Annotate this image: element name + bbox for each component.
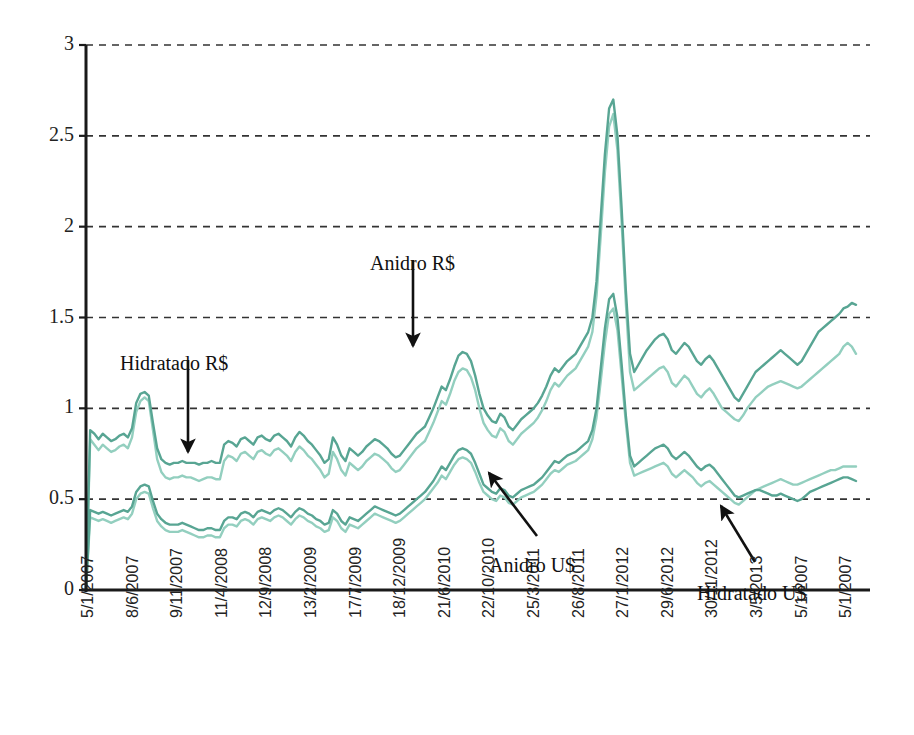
annotation-label-hidratado-u: Hidratado U$ bbox=[697, 582, 806, 605]
annotation-arrow-anidro-u bbox=[489, 473, 537, 536]
annotation-label-anidro-u: Anidro U$ bbox=[489, 554, 575, 577]
x-axis-label: 11/4/2008 bbox=[213, 548, 231, 618]
y-axis-label: 1 bbox=[64, 395, 74, 418]
annotation-label-hidratado-r: Hidratado R$ bbox=[120, 352, 228, 375]
x-axis-label: 8/6/2007 bbox=[124, 556, 142, 618]
x-axis-label: 5/1/2007 bbox=[837, 556, 855, 618]
y-axis-label: 2 bbox=[64, 214, 74, 237]
annotation-label-anidro-r: Anidro R$ bbox=[370, 252, 455, 275]
series-line-hidratado-u bbox=[86, 308, 856, 590]
x-axis-label: 9/11/2007 bbox=[168, 548, 186, 618]
x-axis-label: 12/9/2008 bbox=[257, 547, 275, 618]
series-line-anidro-r bbox=[86, 100, 856, 591]
annotation-arrows bbox=[188, 260, 755, 562]
series-group bbox=[86, 100, 856, 591]
x-axis-label: 21/6/2010 bbox=[436, 547, 454, 618]
y-axis-label: 0 bbox=[64, 577, 74, 600]
gridlines bbox=[86, 45, 870, 499]
x-axis-label: 5/1/2007 bbox=[79, 556, 97, 618]
series-line-anidro-u bbox=[86, 294, 856, 590]
y-axis-label: 1.5 bbox=[49, 305, 74, 328]
annotation-arrow-hidratado-u bbox=[721, 506, 755, 562]
x-axis-label: 27/1/2012 bbox=[614, 547, 632, 618]
chart-container: 00.511.522.535/1/20078/6/20079/11/200711… bbox=[0, 0, 914, 735]
x-axis-label: 13/2/2009 bbox=[302, 547, 320, 618]
y-axis-label: 2.5 bbox=[49, 123, 74, 146]
x-axis-label: 18/12/2009 bbox=[391, 538, 409, 618]
x-axis-label: 29/6/2012 bbox=[659, 547, 677, 618]
x-axis-label: 17/7/2009 bbox=[347, 547, 365, 618]
y-axis-label: 0.5 bbox=[49, 486, 74, 509]
x-axis-label: 22/10/2010 bbox=[480, 538, 498, 618]
axes bbox=[79, 45, 870, 592]
y-axis-label: 3 bbox=[64, 32, 74, 55]
x-axis-label: 30/11/2012 bbox=[703, 539, 721, 618]
